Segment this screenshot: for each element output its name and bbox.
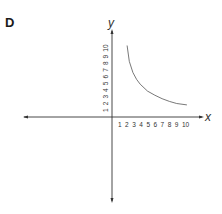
- x-tick-label: 5: [146, 121, 150, 128]
- y-axis-down-arrow-icon: [111, 198, 114, 203]
- y-tick-label: 3: [102, 95, 109, 99]
- x-tick-label: 6: [154, 121, 158, 128]
- x-tick-label: 8: [168, 121, 172, 128]
- y-tick-labels: 12345678910: [102, 44, 109, 112]
- y-tick-label: 7: [102, 68, 109, 72]
- y-tick-label: 8: [102, 61, 109, 65]
- x-axis-right-arrow-icon: [199, 116, 204, 119]
- x-tick-label: 4: [139, 121, 143, 128]
- x-tick-label: 3: [132, 121, 136, 128]
- y-tick-label: 6: [102, 75, 109, 79]
- x-tick-label: 1: [118, 121, 122, 128]
- y-tick-label: 10: [102, 44, 109, 52]
- chart: x y 12345678910 12345678910: [0, 0, 222, 214]
- y-tick-label: 9: [102, 54, 109, 58]
- y-tick-label: 4: [102, 88, 109, 92]
- y-axis-label: y: [107, 16, 115, 30]
- x-axis-left-arrow-icon: [23, 116, 28, 119]
- x-tick-labels: 12345678910: [118, 121, 190, 128]
- x-tick-label: 7: [161, 121, 165, 128]
- x-tick-label: 9: [175, 121, 179, 128]
- hyperbola-curve: [127, 46, 187, 105]
- x-tick-label: 2: [125, 121, 129, 128]
- x-axis-label: x: [204, 110, 212, 124]
- y-tick-label: 1: [102, 108, 109, 112]
- x-tick-label: 10: [182, 121, 190, 128]
- y-tick-label: 2: [102, 101, 109, 105]
- y-tick-label: 5: [102, 81, 109, 85]
